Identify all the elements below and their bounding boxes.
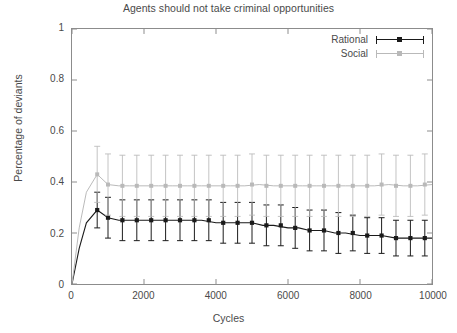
x-tick-label: 10000 <box>403 291 457 301</box>
data-point-marker <box>322 184 326 188</box>
data-point-marker <box>351 231 355 235</box>
data-point-marker <box>408 184 412 188</box>
chart-legend: RationalSocial <box>331 33 426 60</box>
legend-lmark <box>397 37 402 42</box>
data-point-marker <box>293 184 297 188</box>
y-tick-label: 0.4 <box>40 177 64 187</box>
x-tick-label: 4000 <box>186 291 246 301</box>
data-point-marker <box>178 184 182 188</box>
data-point-marker <box>408 236 412 240</box>
data-point-marker <box>336 231 340 235</box>
legend-entry-rational: Rational <box>331 33 426 46</box>
x-tick-label: 6000 <box>258 291 318 301</box>
x-tick-label: 0 <box>41 291 101 301</box>
plot-area: RationalSocial <box>71 28 433 285</box>
data-point-marker <box>322 228 326 232</box>
data-point-marker <box>380 183 384 187</box>
data-point-marker <box>207 184 211 188</box>
legend-lcapL <box>376 50 377 58</box>
data-point-marker <box>236 184 240 188</box>
data-point-marker <box>279 223 283 227</box>
data-point-marker <box>106 216 110 220</box>
data-point-marker <box>250 183 254 187</box>
y-tick-label: 0.8 <box>40 74 64 84</box>
data-point-marker <box>149 184 153 188</box>
data-point-marker <box>236 221 240 225</box>
data-point-marker <box>135 184 139 188</box>
data-point-marker <box>394 184 398 188</box>
data-point-marker <box>308 228 312 232</box>
data-point-marker <box>95 208 99 212</box>
data-point-marker <box>308 184 312 188</box>
data-point-marker <box>264 184 268 188</box>
data-point-marker <box>178 218 182 222</box>
legend-lmark <box>397 51 402 56</box>
y-axis-tick-labels: 00.20.40.60.81 <box>38 0 64 333</box>
data-point-marker <box>423 236 427 240</box>
legend-sample-marker <box>374 34 426 46</box>
data-point-marker <box>106 183 110 187</box>
data-point-marker <box>250 221 254 225</box>
data-point-marker <box>120 218 124 222</box>
legend-label: Rational <box>331 34 368 45</box>
x-tick-label: 8000 <box>331 291 391 301</box>
data-point-marker <box>365 233 369 237</box>
legend-label: Social <box>341 48 368 59</box>
y-axis-title: Percentage of deviants <box>12 48 24 208</box>
data-point-marker <box>192 184 196 188</box>
data-point-marker <box>221 184 225 188</box>
data-point-marker <box>192 218 196 222</box>
data-point-marker <box>394 236 398 240</box>
chart-figure: Agents should not take criminal opportun… <box>0 0 457 333</box>
data-point-marker <box>149 218 153 222</box>
legend-entry-social: Social <box>331 47 426 60</box>
y-tick-label: 0.6 <box>40 126 64 136</box>
data-point-marker <box>423 183 427 187</box>
data-point-marker <box>135 218 139 222</box>
chart-title: Agents should not take criminal opportun… <box>0 2 457 14</box>
data-point-marker <box>264 223 268 227</box>
plot-canvas <box>72 29 432 284</box>
data-point-marker <box>221 221 225 225</box>
data-point-marker <box>293 226 297 230</box>
x-axis-title: Cycles <box>0 312 457 324</box>
x-axis-tick-labels: 0200040006000800010000 <box>0 291 457 305</box>
data-point-marker <box>336 184 340 188</box>
y-tick-label: 0.2 <box>40 229 64 239</box>
data-point-marker <box>351 184 355 188</box>
data-point-marker <box>279 184 283 188</box>
data-point-marker <box>164 184 168 188</box>
legend-lcapR <box>423 50 424 58</box>
data-point-marker <box>207 218 211 222</box>
y-tick-label: 1 <box>40 23 64 33</box>
data-point-marker <box>380 233 384 237</box>
data-point-marker <box>95 172 99 176</box>
data-point-marker <box>120 184 124 188</box>
series-social <box>72 146 432 284</box>
legend-lcapL <box>376 36 377 44</box>
legend-sample-marker <box>374 48 426 60</box>
x-tick-label: 2000 <box>113 291 173 301</box>
y-tick-label: 0 <box>40 280 64 290</box>
data-point-marker <box>365 184 369 188</box>
legend-lcapR <box>423 36 424 44</box>
data-point-marker <box>164 218 168 222</box>
